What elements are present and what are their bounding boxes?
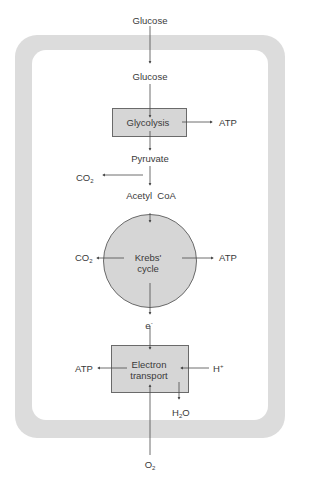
label-et-atp: ATP [75, 363, 93, 374]
label-glycolysis: Glycolysis [127, 117, 170, 128]
label-h-plus: H+ [213, 363, 223, 374]
label-glucose-inside: Glucose [133, 71, 168, 82]
label-electron: e- [145, 320, 152, 331]
label-acetyl-coa: Acetyl CoA [126, 190, 176, 201]
label-pyruvate: Pyruvate [131, 153, 169, 164]
label-electron-transport: Electrontransport [130, 359, 168, 381]
label-krebs-co2: CO2 [75, 252, 93, 263]
label-water: H2O [172, 407, 190, 418]
label-pyruvate-co2: CO2 [76, 172, 94, 183]
label-glucose-outside: Glucose [133, 15, 168, 26]
label-glycolysis-atp: ATP [219, 117, 237, 128]
label-oxygen: O2 [145, 459, 156, 470]
label-krebs-cycle: Krebs'cycle [135, 252, 162, 274]
label-krebs-atp: ATP [219, 252, 237, 263]
